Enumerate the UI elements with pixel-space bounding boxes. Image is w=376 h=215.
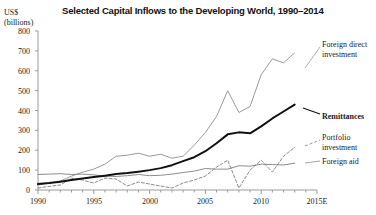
leader-line-foreign-aid	[305, 161, 320, 163]
data-series-group	[38, 53, 295, 188]
series-line-remittances	[38, 105, 295, 184]
leader-line-portfolio	[305, 140, 320, 146]
leader-lines	[303, 47, 320, 163]
leader-line-fdi	[305, 47, 320, 68]
chart-figure: Selected Capital Inflows to the Developi…	[0, 0, 376, 215]
leader-line-remittances	[303, 108, 320, 114]
plot-area	[0, 0, 376, 215]
x-axis-ticks	[38, 190, 317, 194]
axes	[35, 31, 317, 194]
